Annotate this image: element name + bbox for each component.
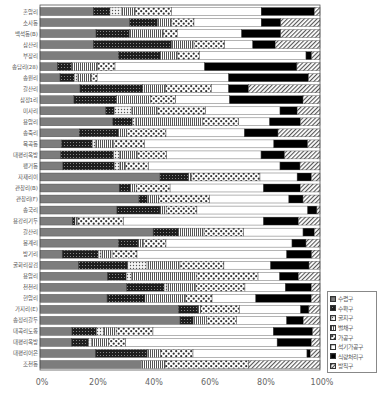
bar-segment-식량처리구	[270, 118, 301, 126]
bar-segment-가공구	[116, 327, 153, 335]
bar-segment-방직구	[298, 217, 320, 225]
bar-segment-가공구	[194, 41, 225, 49]
y-axis-label: 방기리	[23, 249, 38, 259]
y-axis-label: 혼암리	[23, 7, 38, 17]
bar-segment-수확구	[113, 118, 133, 126]
bar-segment-수확구	[57, 63, 71, 71]
bar-segment-굴지구	[92, 140, 95, 148]
bar-segment-가공구	[191, 173, 260, 181]
bar-segment-방직구	[300, 162, 320, 170]
bar-segment-석기가공구	[197, 206, 308, 214]
bar-segment-석기가공구	[244, 228, 303, 236]
bar-segment-석기가공구	[239, 118, 270, 126]
bar-segment-벌채구	[131, 184, 137, 192]
legend-swatch	[330, 363, 336, 369]
bar-segment-석기가공구	[260, 173, 297, 181]
bar-segment-굴지구	[114, 151, 120, 159]
bar-segment-방직구	[311, 173, 320, 181]
bars-group	[40, 8, 320, 369]
y-axis-label: 갈산리	[23, 84, 38, 94]
bar-segment-식량처리구	[263, 217, 298, 225]
bar-segment-가공구	[112, 250, 137, 258]
bar-segment-수확구	[74, 96, 116, 104]
bar-segment-벌채구	[193, 316, 206, 324]
bar-segment-가공구	[91, 74, 97, 82]
bar-segment-벌채구	[167, 283, 196, 291]
bar-segment-벌채구	[147, 261, 180, 269]
bar-segment-수렵구	[40, 118, 113, 126]
bar-segment-수확구	[72, 327, 97, 335]
bar-segment-방직구	[309, 261, 320, 269]
bar-segment-식량처리구	[287, 250, 312, 258]
bar-segment-석기가공구	[137, 250, 287, 258]
bar-segment-석기가공구	[258, 272, 280, 280]
bar-segment-수렵구	[40, 250, 62, 258]
bar-segment-식량처리구	[261, 19, 281, 27]
bar-segment-가공구	[201, 305, 240, 313]
bar-segment-석기가공구	[170, 184, 263, 192]
bar-segment-석기가공구	[200, 52, 306, 60]
bar-segment-수렵구	[40, 162, 63, 170]
y-axis-label: 천천리	[23, 282, 38, 292]
bar-segment-석기가공구	[172, 8, 262, 16]
bar-segment-수확구	[139, 195, 147, 203]
x-axis-tick: 40%	[145, 378, 163, 387]
bar-segment-방직구	[311, 283, 320, 291]
bar-segment-가공구	[144, 239, 166, 247]
bar-segment-수확구	[95, 349, 147, 357]
legend-item: 굴지구	[330, 313, 374, 323]
legend-label: 수렵구	[338, 294, 353, 303]
legend-label: 수확구	[338, 304, 353, 313]
legend-item: 방직구	[330, 361, 374, 371]
y-axis-label: 봉계리	[23, 238, 38, 248]
bar-segment-수확구	[93, 41, 171, 49]
bar-segment-식량처리구	[271, 261, 309, 269]
bar-segment-가공구	[135, 8, 171, 16]
y-axis-label: 자재리이	[18, 172, 38, 182]
x-axis-tick: 20%	[89, 378, 107, 387]
bar-segment-굴지구	[74, 74, 77, 82]
bar-segment-굴지구	[110, 8, 121, 16]
bar-segment-굴지구	[114, 107, 131, 115]
bar-segment-굴지구	[132, 118, 135, 126]
bar-segment-석기가공구	[225, 41, 253, 49]
bar-segment-석기가공구	[194, 19, 261, 27]
bar-segment-수렵구	[40, 349, 95, 357]
bar-segment-수렵구	[40, 52, 118, 60]
y-axis-label: 대평리옥방	[13, 150, 38, 160]
bar-segment-석기가공구	[176, 96, 230, 104]
bar-segment-벌채구	[189, 173, 192, 181]
legend-swatch	[330, 315, 336, 321]
bar-segment-수렵구	[40, 8, 93, 16]
bar-segment-식량처리구	[292, 239, 306, 247]
y-axis-label: 조천동	[23, 359, 38, 369]
bar-segment-식량처리구	[308, 206, 317, 214]
bar-segment-수확구	[127, 283, 165, 291]
bar-segment-석기가공구	[240, 305, 301, 313]
y-axis-label: 송정리갈두	[13, 315, 38, 325]
bar-segment-수렵구	[40, 195, 139, 203]
bar-segment-벌채구	[118, 129, 126, 137]
bar-segment-수확구	[153, 228, 178, 236]
y-axis-label: 용강리기두	[13, 216, 38, 226]
bar-segment-벌채구	[120, 151, 138, 159]
bar-segment-수렵구	[40, 283, 127, 291]
bar-segment-가공구	[78, 217, 124, 225]
bar-segment-벌채구	[72, 63, 98, 71]
bar-segment-가공구	[160, 349, 193, 357]
y-axis-label: 관창리(B)	[15, 183, 38, 193]
bar-segment-벌채구	[135, 118, 202, 126]
bar-segment-벌채구	[101, 250, 112, 258]
bar-segment-가공구	[136, 184, 170, 192]
bar-segment-수렵구	[40, 217, 72, 225]
bar-segment-수확구	[160, 173, 189, 181]
bar-segment-수확구	[63, 162, 114, 170]
bar-segment-벌채구	[91, 338, 108, 346]
bar-segment-방직구	[309, 74, 320, 82]
bar-segment-수확구	[118, 52, 160, 60]
bar-segment-수렵구	[40, 184, 119, 192]
bar-segment-석기가공구	[177, 30, 241, 38]
legend-item: 석기가공구	[330, 342, 374, 352]
bar-segment-방직구	[249, 85, 320, 93]
bar-segment-방직구	[306, 239, 320, 247]
